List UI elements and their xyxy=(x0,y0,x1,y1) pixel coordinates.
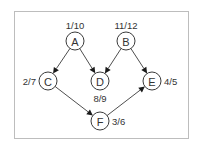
discovery-finish-time-label: 2/7 xyxy=(23,76,36,87)
discovery-finish-time-label: 3/6 xyxy=(112,116,125,127)
discovery-finish-time-label: 1/10 xyxy=(66,20,85,31)
node-label: E xyxy=(148,76,155,88)
discovery-finish-time-label: 4/5 xyxy=(164,76,177,87)
arrowhead-icon xyxy=(141,67,147,74)
node-label: B xyxy=(122,36,129,48)
edge-b-to-e xyxy=(131,49,147,74)
edge-line xyxy=(107,90,140,115)
dfs-graph-diagram: A1/10B11/12C2/7D8/9E4/5F3/6 xyxy=(0,0,198,148)
discovery-finish-time-label: 8/9 xyxy=(93,93,106,104)
node-d: D8/9 xyxy=(91,72,109,104)
edge-a-to-d xyxy=(80,49,95,74)
arrowhead-icon xyxy=(53,67,59,74)
node-b: B11/12 xyxy=(114,20,137,51)
arrowhead-icon xyxy=(90,67,96,74)
node-label: C xyxy=(44,76,52,88)
edge-line xyxy=(80,49,92,69)
edge-b-to-d xyxy=(105,49,121,74)
node-label: A xyxy=(71,36,79,48)
arrowhead-icon xyxy=(138,86,145,92)
discovery-finish-time-label: 11/12 xyxy=(114,20,137,31)
arrowhead-icon xyxy=(105,67,111,74)
edge-line xyxy=(131,49,144,69)
node-e: E4/5 xyxy=(143,72,177,90)
edge-line xyxy=(56,48,70,68)
edge-c-to-f xyxy=(55,86,93,115)
edge-f-to-e xyxy=(107,86,145,115)
node-c: C2/7 xyxy=(23,72,57,90)
node-a: A1/10 xyxy=(66,20,85,51)
node-label: D xyxy=(96,76,104,88)
nodes-group: A1/10B11/12C2/7D8/9E4/5F3/6 xyxy=(23,20,177,131)
edge-a-to-c xyxy=(53,48,70,73)
edge-line xyxy=(55,86,88,111)
edge-line xyxy=(108,49,121,69)
arrowhead-icon xyxy=(86,109,93,115)
node-label: F xyxy=(97,116,104,128)
